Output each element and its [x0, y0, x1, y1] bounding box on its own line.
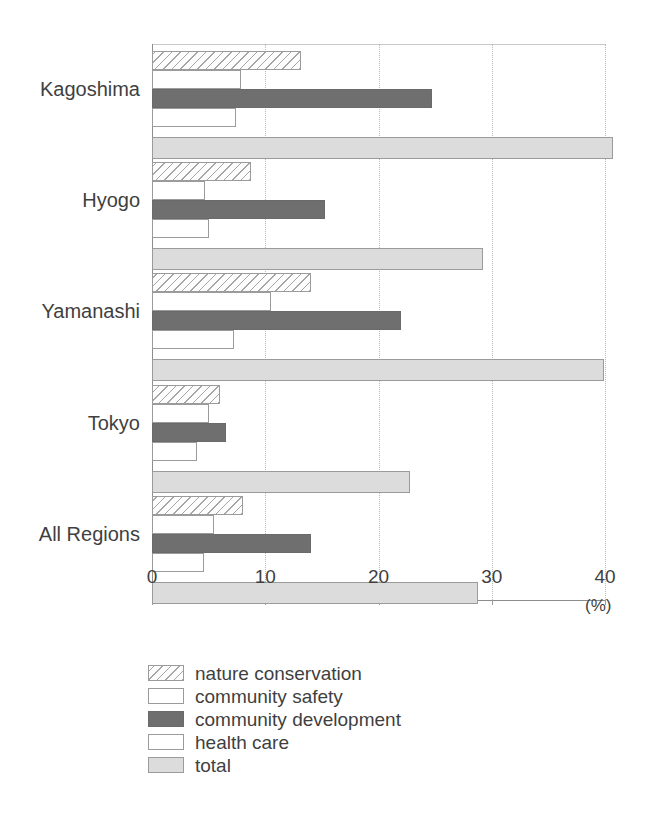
bar: [152, 162, 251, 181]
legend-swatch-icon: [148, 734, 184, 750]
bar: [152, 385, 220, 404]
bar: [152, 553, 204, 572]
legend-swatch-icon: [148, 688, 184, 704]
bar: [152, 534, 311, 553]
legend-label: health care: [195, 733, 289, 752]
bar: [152, 292, 271, 311]
x-tick-label-10: 10: [255, 566, 276, 588]
bar-total: [152, 359, 604, 381]
legend-label: nature conservation: [195, 664, 362, 683]
bar-total: [152, 248, 483, 270]
bar-total: [152, 137, 613, 159]
bar: [152, 515, 214, 534]
x-tick-label-30: 30: [481, 566, 502, 588]
plot-area: [152, 44, 605, 600]
bar-chart: 010203040 (%) KagoshimaHyogoYamanashiTok…: [0, 0, 666, 835]
bar: [152, 330, 234, 349]
bar-total: [152, 582, 478, 604]
bar: [152, 404, 209, 423]
chart-legend: nature conservationcommunity safetycommu…: [148, 662, 401, 777]
legend-swatch-icon: [148, 711, 184, 727]
legend-swatch-icon: [148, 665, 184, 681]
bar: [152, 273, 311, 292]
gridline-40: [605, 44, 606, 600]
category-label-kagoshima: Kagoshima: [0, 78, 140, 101]
bar: [152, 51, 301, 70]
category-label-hyogo: Hyogo: [0, 189, 140, 212]
legend-item: community safety: [148, 685, 401, 707]
legend-item: health care: [148, 731, 401, 753]
bar: [152, 219, 209, 238]
x-tick-label-0: 0: [147, 566, 158, 588]
legend-label: total: [195, 756, 231, 775]
bar: [152, 70, 241, 89]
bar: [152, 311, 401, 330]
gridline-30: [492, 44, 493, 600]
bar-total: [152, 471, 410, 493]
category-label-yamanashi: Yamanashi: [0, 300, 140, 323]
legend-label: community safety: [195, 687, 343, 706]
bar: [152, 108, 236, 127]
bar: [152, 89, 432, 108]
x-tick-label-20: 20: [368, 566, 389, 588]
legend-item: nature conservation: [148, 662, 401, 684]
category-label-all-regions: All Regions: [0, 522, 140, 545]
legend-swatch-icon: [148, 757, 184, 773]
legend-item: community development: [148, 708, 401, 730]
category-label-tokyo: Tokyo: [0, 411, 140, 434]
legend-item: total: [148, 754, 401, 776]
bar: [152, 496, 243, 515]
bar: [152, 442, 197, 461]
x-axis-unit-label: (%): [585, 596, 611, 616]
x-tick-mark-30: [492, 600, 493, 605]
bar: [152, 423, 226, 442]
bar: [152, 200, 325, 219]
x-tick-label-40: 40: [594, 566, 615, 588]
bar: [152, 181, 205, 200]
legend-label: community development: [195, 710, 401, 729]
